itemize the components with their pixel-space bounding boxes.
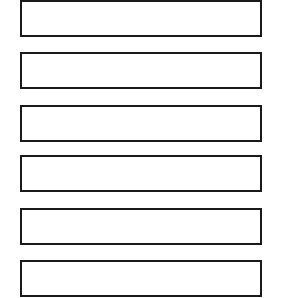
empty-box-1 (20, 0, 262, 37)
box-label-5 (22, 210, 260, 230)
empty-box-4 (20, 155, 262, 192)
box-label-6 (22, 262, 260, 282)
empty-box-2 (20, 52, 262, 89)
box-label-2 (22, 54, 260, 74)
box-label-1 (22, 2, 260, 22)
box-label-4 (22, 157, 260, 177)
empty-box-5 (20, 208, 262, 245)
box-label-3 (22, 107, 260, 127)
empty-box-6 (20, 260, 262, 297)
empty-box-3 (20, 105, 262, 142)
